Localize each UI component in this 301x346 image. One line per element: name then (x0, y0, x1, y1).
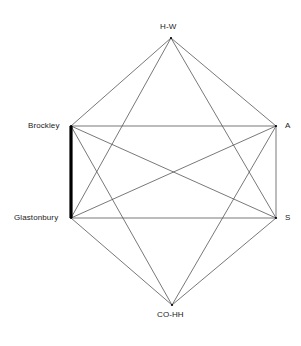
graph-edge-s-cohh (172, 218, 276, 305)
graph-canvas (0, 0, 301, 346)
graph-edge-hw-brockley (71, 38, 171, 126)
graph-edge-hw-a (171, 38, 276, 126)
node-layer (70, 37, 277, 306)
edge-layer (71, 38, 276, 305)
graph-node-cohh (171, 304, 173, 306)
graph-node-s (275, 217, 277, 219)
graph-edge-hw-s (171, 38, 276, 218)
graph-diagram: H-W A S CO-HH Glastonbury Brockley (0, 0, 301, 346)
graph-edge-a-cohh (172, 126, 276, 305)
node-label-cohh: CO-HH (157, 310, 184, 319)
node-label-s: S (285, 213, 290, 222)
graph-node-glastonbury (70, 217, 72, 219)
graph-edge-hw-glastonbury (71, 38, 171, 218)
node-label-a: A (285, 121, 290, 130)
graph-node-brockley (70, 125, 72, 127)
graph-edge-cohh-glastonbury (71, 218, 172, 305)
node-label-brockley: Brockley (28, 121, 59, 130)
node-label-hw: H-W (160, 22, 176, 31)
graph-node-hw (170, 37, 172, 39)
graph-edge-cohh-brockley (71, 126, 172, 305)
graph-node-a (275, 125, 277, 127)
node-label-glastonbury: Glastonbury (14, 213, 58, 222)
